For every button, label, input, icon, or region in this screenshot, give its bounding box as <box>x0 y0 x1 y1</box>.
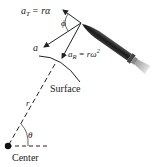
surface-label: Surface <box>50 83 81 94</box>
tangential-acc-label: aT= rα <box>21 5 51 18</box>
center-dot <box>5 143 11 149</box>
phi-label: ϕ <box>61 18 66 28</box>
radius-label: r <box>26 98 30 108</box>
tangential-acceleration-arrow <box>63 10 81 23</box>
centripetal-acceleration-diagram: aT= rα ϕ a aR= rω2 Surface r θ Center <box>0 0 155 167</box>
theta-label: θ <box>28 130 33 140</box>
center-label: Center <box>12 152 39 163</box>
radial-acc-label: aR= rω2 <box>68 48 100 60</box>
rocket-body <box>79 20 150 74</box>
total-acc-label: a <box>33 42 38 53</box>
